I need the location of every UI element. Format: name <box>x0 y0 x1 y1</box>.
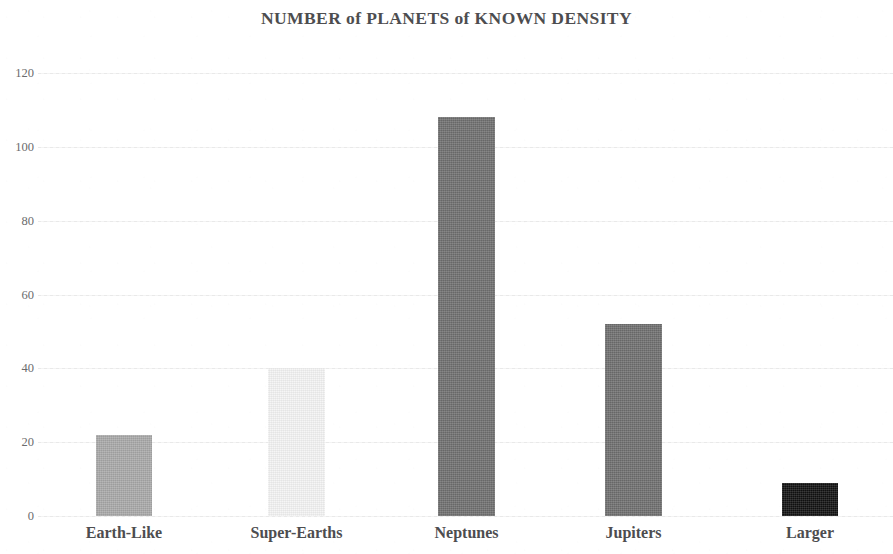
bar-fill <box>268 368 325 516</box>
x-axis-category-label: Neptunes <box>434 524 498 542</box>
x-axis-category-label: Larger <box>786 524 834 542</box>
x-axis-category-label: Earth-Like <box>86 524 162 542</box>
y-axis-tick-label: 40 <box>0 361 34 376</box>
y-axis-tick-label: 0 <box>0 509 34 524</box>
y-axis: 020406080100120 <box>0 60 34 520</box>
x-axis-category-label: Jupiters <box>606 524 662 542</box>
y-axis-tick-label: 80 <box>0 213 34 228</box>
bar-fill <box>438 117 495 516</box>
bar[interactable] <box>438 117 495 516</box>
chart-title: NUMBER of PLANETS of KNOWN DENSITY <box>0 8 893 29</box>
x-axis: Earth-LikeSuper-EarthsNeptunesJupitersLa… <box>38 524 893 554</box>
chart-figure: NUMBER of PLANETS of KNOWN DENSITY 02040… <box>0 0 893 554</box>
gridline <box>38 516 893 517</box>
bar[interactable] <box>268 368 325 516</box>
bar[interactable] <box>96 435 152 516</box>
y-axis-tick-label: 100 <box>0 140 34 155</box>
y-axis-tick-label: 60 <box>0 287 34 302</box>
bar-fill <box>605 324 662 516</box>
plot-area <box>38 60 893 520</box>
gridline <box>38 73 893 74</box>
bar[interactable] <box>782 483 838 516</box>
x-axis-category-label: Super-Earths <box>251 524 343 542</box>
bar-fill <box>782 483 838 516</box>
bar-fill <box>96 435 152 516</box>
bar[interactable] <box>605 324 662 516</box>
y-axis-tick-label: 20 <box>0 435 34 450</box>
y-axis-tick-label: 120 <box>0 66 34 81</box>
